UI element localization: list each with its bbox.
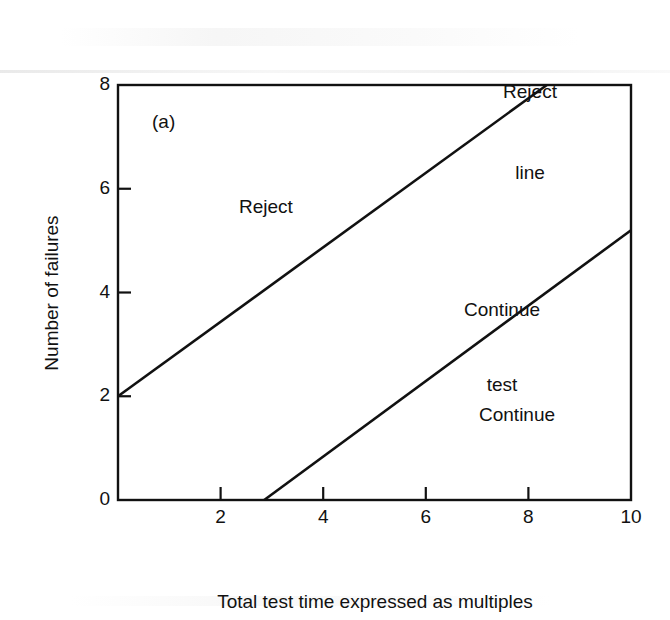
y-tick-label-8: 8	[84, 73, 110, 95]
x-tick-label-8: 8	[508, 506, 548, 528]
region-label-reject: Reject	[239, 196, 293, 218]
y-axis-title: Number of failures	[41, 183, 63, 403]
y-tick-label-4: 4	[84, 281, 110, 303]
annotation-reject-line-word2: line	[470, 159, 590, 186]
region-label-continue-test-line2: test	[464, 372, 540, 397]
x-tick-label-2: 2	[201, 506, 241, 528]
region-label-continue-test-line1: Continue	[464, 297, 540, 322]
x-tick-label-6: 6	[406, 506, 446, 528]
accept-decision-line	[264, 230, 631, 500]
y-tick-label-0: 0	[84, 488, 110, 510]
x-tick-label-10: 10	[611, 506, 651, 528]
x-axis-title-line1: Total test time expressed as multiples	[135, 589, 615, 615]
x-tick-label-4: 4	[303, 506, 343, 528]
region-label-continue: Continue	[479, 404, 555, 426]
y-tick-label-2: 2	[84, 384, 110, 406]
annotation-reject-line: Reject line	[470, 24, 590, 240]
y-tick-label-6: 6	[84, 177, 110, 199]
x-axis-title: Total test time expressed as multiples o…	[135, 537, 615, 620]
figure-container: 2 4 6 8 10 0 2 4 6 8 (a) Reject Continue…	[0, 0, 670, 620]
annotation-reject-line-word1: Reject	[470, 78, 590, 105]
subfigure-label: (a)	[152, 111, 175, 133]
